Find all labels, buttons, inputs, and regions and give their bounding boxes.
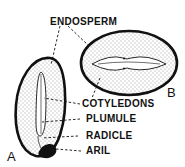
seed-b-cross-section bbox=[81, 31, 177, 95]
label-endosperm: ENDOSPERM bbox=[50, 17, 117, 27]
label-cotyledons: COTYLEDONS bbox=[82, 99, 154, 109]
seed-a-longitudinal-section bbox=[16, 58, 65, 158]
figure-label-a: A bbox=[7, 150, 16, 163]
figure-label-b: B bbox=[167, 86, 176, 99]
label-aril: ARIL bbox=[86, 146, 111, 156]
label-radicle: RADICLE bbox=[86, 131, 133, 141]
label-plumule: PLUMULE bbox=[86, 114, 136, 124]
